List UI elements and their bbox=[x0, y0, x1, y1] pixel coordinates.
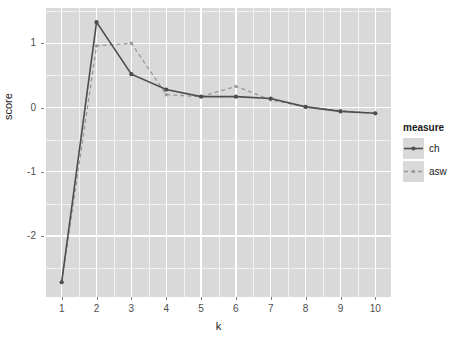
data-point-asw-k2 bbox=[95, 44, 98, 47]
x-axis-label: k bbox=[46, 320, 391, 332]
x-tick-mark bbox=[131, 297, 132, 300]
chart-root: 10-1-2 12345678910 score k measure chasw bbox=[0, 0, 463, 342]
data-point-ch-k6 bbox=[234, 95, 238, 99]
legend-title: measure bbox=[403, 122, 461, 133]
x-tick-mark bbox=[201, 297, 202, 300]
y-tick-mark bbox=[41, 108, 44, 109]
legend-label-asw: asw bbox=[429, 166, 447, 177]
x-tick-mark bbox=[166, 297, 167, 300]
legend-items: chasw bbox=[403, 138, 461, 182]
legend-key-asw bbox=[403, 161, 424, 182]
data-point-ch-k1 bbox=[60, 280, 64, 284]
x-tick-mark bbox=[97, 297, 98, 300]
data-point-ch-k7 bbox=[269, 96, 273, 100]
y-tick-mark bbox=[41, 236, 44, 237]
data-point-asw-k6 bbox=[234, 85, 237, 88]
y-tick-label: 0 bbox=[18, 102, 36, 113]
x-tick-label: 1 bbox=[50, 303, 74, 314]
legend-key-ch bbox=[403, 138, 424, 159]
x-tick-label: 4 bbox=[154, 303, 178, 314]
y-tick-label: -1 bbox=[18, 166, 36, 177]
data-point-ch-k10 bbox=[373, 111, 377, 115]
x-tick-label: 8 bbox=[294, 303, 318, 314]
series-line-ch bbox=[62, 22, 376, 282]
data-point-ch-k2 bbox=[94, 20, 98, 24]
y-tick-label: 1 bbox=[18, 37, 36, 48]
y-tick-label: -2 bbox=[18, 230, 36, 241]
legend-item-ch[interactable]: ch bbox=[403, 138, 461, 159]
y-tick-mark bbox=[41, 43, 44, 44]
y-axis-label: score bbox=[2, 93, 14, 120]
x-tick-mark bbox=[375, 297, 376, 300]
legend-label-ch: ch bbox=[429, 143, 440, 154]
data-point-ch-k8 bbox=[304, 105, 308, 109]
plot-panel bbox=[46, 8, 391, 297]
x-tick-label: 6 bbox=[224, 303, 248, 314]
series-layer bbox=[46, 8, 391, 297]
x-tick-mark bbox=[341, 297, 342, 300]
x-tick-label: 9 bbox=[329, 303, 353, 314]
x-tick-label: 5 bbox=[189, 303, 213, 314]
legend: measure chasw bbox=[403, 122, 461, 184]
x-tick-label: 3 bbox=[119, 303, 143, 314]
legend-item-asw[interactable]: asw bbox=[403, 161, 461, 182]
data-point-ch-k3 bbox=[129, 72, 133, 76]
series-line-asw bbox=[62, 43, 376, 282]
x-tick-label: 7 bbox=[259, 303, 283, 314]
data-point-ch-k5 bbox=[199, 95, 203, 99]
x-tick-mark bbox=[306, 297, 307, 300]
data-point-asw-k4 bbox=[165, 93, 168, 96]
x-tick-label: 10 bbox=[363, 303, 387, 314]
x-tick-mark bbox=[271, 297, 272, 300]
data-point-ch-k4 bbox=[164, 87, 168, 91]
y-tick-mark bbox=[41, 172, 44, 173]
x-tick-label: 2 bbox=[85, 303, 109, 314]
x-tick-mark bbox=[62, 297, 63, 300]
data-point-asw-k3 bbox=[130, 42, 133, 45]
data-point-ch-k9 bbox=[338, 109, 342, 113]
x-tick-mark bbox=[236, 297, 237, 300]
